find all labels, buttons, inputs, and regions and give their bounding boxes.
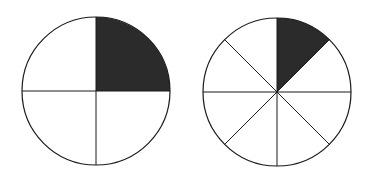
- shaded-sector: [277, 18, 329, 92]
- division-line: [225, 92, 277, 144]
- division-line: [225, 40, 277, 92]
- shaded-sector: [96, 17, 170, 91]
- diagram-canvas: [0, 0, 368, 176]
- fraction-circles-diagram: Two fraction circles showing equivalent …: [0, 0, 368, 176]
- division-line: [277, 92, 329, 144]
- eighths-circle: [203, 18, 351, 166]
- quarters-circle: [22, 17, 170, 165]
